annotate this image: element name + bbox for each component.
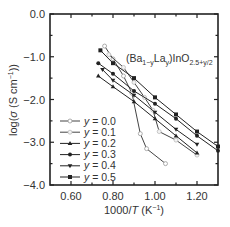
y-tick-label: −2.0 <box>23 94 45 106</box>
light-circle-marker-icon <box>122 65 126 69</box>
legend-label: y = 0.4 <box>83 159 116 171</box>
filled-square-marker-icon <box>98 48 102 52</box>
filled-square-marker-icon <box>68 175 72 179</box>
y-tick-label: −4.0 <box>23 179 45 191</box>
y-axis-title: log(σ (S cm−1)) <box>7 64 19 136</box>
x-tick-label: 1.00 <box>144 190 165 202</box>
legend-item: y = 0.4 <box>60 159 116 171</box>
filled-square-marker-icon <box>195 130 199 134</box>
open-circle-marker-icon <box>145 147 149 151</box>
y-tick-label: −3.0 <box>23 136 45 148</box>
light-circle-marker-icon <box>157 130 161 134</box>
x-tick-label: 0.80 <box>102 190 123 202</box>
series-line <box>103 70 198 145</box>
triangle-down-marker-icon <box>195 143 200 147</box>
legend-item: y = 0.2 <box>60 137 116 149</box>
legend-label: y = 0.0 <box>83 115 116 127</box>
filled-square-marker-icon <box>153 95 157 99</box>
open-circle-marker-icon <box>164 162 168 166</box>
legend-item: y = 0.0 <box>60 115 116 127</box>
triangle-down-marker-icon <box>174 128 179 132</box>
legend-label: y = 0.1 <box>83 126 116 138</box>
legend: y = 0.0y = 0.1y = 0.2y = 0.3y = 0.4y = 0… <box>60 115 116 183</box>
light-circle-marker-icon <box>174 138 178 142</box>
light-circle-marker-icon <box>68 130 72 134</box>
filled-circle-marker-icon <box>174 117 178 121</box>
light-circle-marker-icon <box>107 53 111 57</box>
legend-label: y = 0.3 <box>83 148 116 160</box>
filled-circle-marker-icon <box>96 61 100 65</box>
filled-circle-marker-icon <box>111 72 115 76</box>
open-circle-marker-icon <box>122 74 126 78</box>
filled-circle-marker-icon <box>153 102 157 106</box>
conductivity-chart: 0.600.801.001.200.0−1.0−2.0−3.0−4.0 1000… <box>0 0 230 227</box>
triangle-down-marker-icon <box>111 79 116 83</box>
legend-item: y = 0.5 <box>60 171 116 183</box>
filled-square-marker-icon <box>132 76 136 80</box>
triangle-up-marker-icon <box>111 84 116 88</box>
legend-label: y = 0.2 <box>83 137 116 149</box>
open-circle-marker-icon <box>103 44 107 48</box>
light-circle-marker-icon <box>132 80 136 84</box>
compound-formula-annotation: (Ba1−yLay)InO2.5+y/2 <box>126 52 213 67</box>
triangle-up-marker-icon <box>96 74 101 78</box>
filled-square-marker-icon <box>174 112 178 116</box>
filled-circle-marker-icon <box>132 89 136 93</box>
x-tick-label: 0.60 <box>60 190 81 202</box>
y-tick-label: −1.0 <box>23 51 45 63</box>
open-circle-marker-icon <box>138 132 142 136</box>
filled-square-marker-icon <box>111 61 115 65</box>
triangle-up-marker-icon <box>132 99 137 103</box>
legend-item: y = 0.1 <box>60 126 116 138</box>
filled-circle-marker-icon <box>195 134 199 138</box>
x-axis-title: 1000/T (K−1) <box>104 204 164 216</box>
y-tick-label: 0.0 <box>30 8 45 20</box>
x-tick-label: 1.20 <box>186 190 207 202</box>
legend-item: y = 0.3 <box>60 148 116 160</box>
series-line <box>98 63 218 151</box>
filled-circle-marker-icon <box>68 153 72 157</box>
legend-label: y = 0.5 <box>83 171 116 183</box>
open-circle-marker-icon <box>68 119 72 123</box>
